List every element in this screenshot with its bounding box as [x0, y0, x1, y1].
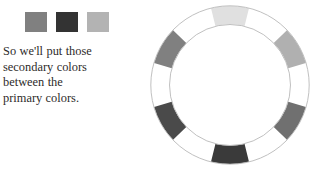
swatch-secondary-1	[25, 12, 47, 32]
caption-line-3: between the	[3, 75, 137, 91]
wheel-segment-bottom	[211, 144, 249, 164]
wheel-inner-outline	[170, 25, 291, 146]
caption-line-2: secondary colors	[3, 60, 137, 76]
wheel-segment-top	[211, 6, 249, 26]
swatch-row	[25, 12, 109, 32]
caption-line-1: So we'll put those	[3, 44, 137, 60]
left-text-panel: So we'll put those secondary colors betw…	[0, 0, 140, 170]
wheel-segment-left-gap	[151, 66, 171, 104]
caption-text: So we'll put those secondary colors betw…	[3, 44, 137, 106]
color-wheel	[148, 2, 312, 168]
slide-canvas: So we'll put those secondary colors betw…	[0, 0, 315, 170]
swatch-secondary-3	[87, 12, 109, 32]
color-wheel-graphic	[148, 2, 312, 168]
wheel-outer-outline	[151, 6, 309, 164]
color-wheel-segments	[151, 6, 309, 164]
swatch-secondary-2	[56, 12, 78, 32]
caption-line-4: primary colors.	[3, 91, 137, 107]
wheel-segment-right-gap	[289, 66, 309, 104]
